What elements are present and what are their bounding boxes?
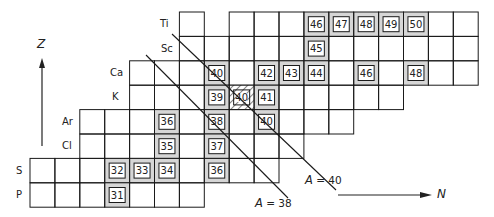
grid-cell <box>229 110 254 134</box>
grid-cell <box>354 85 379 109</box>
mass-number: 40 <box>260 116 273 127</box>
element-label-k: K <box>112 91 119 103</box>
element-label-ti: Ti <box>160 18 169 30</box>
grid-cell <box>279 110 304 134</box>
isobar-label-symbol: A <box>255 196 263 210</box>
z-arrowhead-icon <box>39 58 45 68</box>
grid-cell <box>229 158 254 182</box>
grid-cell <box>379 85 404 109</box>
grid-cell <box>304 85 329 109</box>
element-label-p: P <box>16 189 22 201</box>
nuclide-chart: 4647484950454042434446483940413638403537… <box>0 0 494 217</box>
grid-cell <box>204 36 229 60</box>
grid-cell <box>428 12 453 36</box>
grid-cell <box>105 110 130 134</box>
grid-cell <box>254 134 279 158</box>
mass-number: 47 <box>335 19 348 30</box>
isobar-label-value: = 40 <box>313 174 342 186</box>
grid-cell <box>130 85 155 109</box>
mass-number: 42 <box>260 68 273 79</box>
grid-cell <box>254 12 279 36</box>
grid-cell <box>329 61 354 85</box>
mass-number: 50 <box>410 19 423 30</box>
grid-cell <box>155 61 180 85</box>
element-label-sc: Sc <box>161 43 173 55</box>
element-label-cl: Cl <box>62 140 72 152</box>
n-axis-label: N <box>437 188 446 200</box>
grid-cell <box>329 110 354 134</box>
grid-cell <box>279 12 304 36</box>
grid-cell <box>155 85 180 109</box>
grid-cell <box>30 158 55 182</box>
grid-cell <box>229 134 254 158</box>
element-label-ar: Ar <box>62 116 73 128</box>
mass-number: 48 <box>360 19 373 30</box>
grid-cell <box>105 134 130 158</box>
grid-cell <box>354 36 379 60</box>
z-axis-label: Z <box>37 38 45 50</box>
mass-number: 44 <box>310 68 323 79</box>
grid-cell <box>55 158 80 182</box>
element-label-s: S <box>16 165 22 177</box>
grid-cell <box>80 134 105 158</box>
grid-cell <box>179 183 204 207</box>
grid-cell <box>130 61 155 85</box>
grid-cell <box>130 110 155 134</box>
n-arrowhead-icon <box>420 192 432 198</box>
grid-cell <box>229 36 254 60</box>
grid-cell <box>254 158 279 182</box>
grid-cell <box>329 85 354 109</box>
isobar-label-value: = 38 <box>263 197 292 209</box>
grid-cell <box>55 183 80 207</box>
grid-cell <box>30 183 55 207</box>
mass-number: 43 <box>285 68 298 79</box>
grid-cell <box>130 134 155 158</box>
grid-cell <box>179 36 204 60</box>
grid-cell <box>279 36 304 60</box>
mass-number: 36 <box>161 116 174 127</box>
mass-number: 40 <box>235 92 248 103</box>
grid-cell <box>179 85 204 109</box>
mass-number: 46 <box>360 68 373 79</box>
mass-number: 49 <box>385 19 398 30</box>
grid-cell <box>453 12 478 36</box>
element-label-ca: Ca <box>110 67 123 79</box>
grid-cell <box>254 36 279 60</box>
grid-cell <box>453 61 478 85</box>
grid-cell <box>404 36 429 60</box>
grid-cell <box>179 158 204 182</box>
isobar-label-symbol: A <box>305 173 313 187</box>
mass-number: 39 <box>210 92 223 103</box>
grid-cell <box>179 134 204 158</box>
grid-cell <box>329 36 354 60</box>
mass-number: 36 <box>210 165 223 176</box>
grid-cell <box>453 36 478 60</box>
grid-cell <box>428 61 453 85</box>
mass-number: 41 <box>260 92 273 103</box>
mass-number: 48 <box>410 68 423 79</box>
mass-number: 37 <box>210 141 223 152</box>
grid-cell <box>80 110 105 134</box>
grid-cell <box>428 36 453 60</box>
grid-cell <box>229 61 254 85</box>
grid-cell <box>379 61 404 85</box>
grid-cell <box>279 85 304 109</box>
isobar-label: A = 40 <box>305 174 342 186</box>
mass-number: 31 <box>111 190 124 201</box>
grid-cell <box>80 183 105 207</box>
mass-number: 46 <box>310 19 323 30</box>
grid-cells: 4647484950454042434446483940413638403537… <box>30 12 478 207</box>
mass-number: 32 <box>111 165 124 176</box>
grid-cell <box>304 110 329 134</box>
mass-number: 33 <box>136 165 149 176</box>
mass-number: 45 <box>310 43 323 54</box>
grid-cell <box>279 134 304 158</box>
grid-cell <box>229 12 254 36</box>
mass-number: 35 <box>161 141 174 152</box>
mass-number: 34 <box>161 165 174 176</box>
grid-cell <box>179 110 204 134</box>
grid-cell <box>179 61 204 85</box>
grid-cell <box>179 12 204 36</box>
grid-cell <box>80 158 105 182</box>
grid-cell <box>379 36 404 60</box>
